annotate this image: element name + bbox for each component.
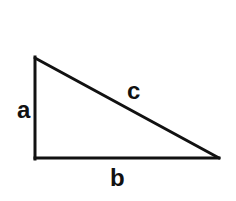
side-b-label: b	[110, 164, 125, 191]
right-triangle-diagram: a b c	[0, 0, 236, 201]
side-c-label: c	[127, 77, 140, 104]
triangle	[35, 57, 219, 159]
side-a-label: a	[17, 96, 31, 123]
side-c-hypotenuse-line	[35, 58, 219, 158]
